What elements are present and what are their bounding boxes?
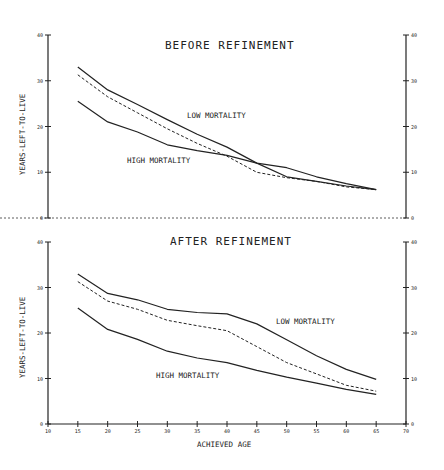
top-left-tick-label: 20 [37, 124, 43, 130]
top-panel-title: BEFORE REFINEMENT [165, 39, 295, 52]
x-tick-label: 60 [343, 428, 349, 434]
x-tick-label: 35 [194, 428, 200, 434]
x-tick-label: 55 [313, 428, 319, 434]
x-tick-label: 40 [224, 428, 230, 434]
bottom-left-tick-label: 30 [37, 285, 43, 291]
chart-figure: 0010102020303040400010102020303040401015… [0, 0, 444, 470]
bottom-left-tick-label: 10 [37, 376, 43, 382]
x-tick-label: 25 [134, 428, 140, 434]
bottom-right-tick-label: 10 [411, 376, 417, 382]
top-right-tick-label: 20 [411, 124, 417, 130]
top-right-tick-label: 0 [411, 215, 414, 221]
bottom-panel-title: AFTER REFINEMENT [170, 235, 292, 248]
bottom-series-solid [78, 274, 376, 380]
bottom-left-tick-label: 20 [37, 330, 43, 336]
x-tick-label: 50 [284, 428, 290, 434]
top-left-tick-label: 30 [37, 78, 43, 84]
bottom-high-mortality-label: HIGH MORTALITY [156, 371, 220, 380]
top-right-tick-label: 30 [411, 78, 417, 84]
x-tick-label: 15 [75, 428, 81, 434]
x-axis-label: ACHIEVED AGE [197, 440, 252, 449]
bottom-left-tick-label: 0 [40, 421, 43, 427]
x-tick-label: 65 [373, 428, 379, 434]
bottom-right-tick-label: 20 [411, 330, 417, 336]
x-tick-label: 20 [105, 428, 111, 434]
top-right-tick-label: 10 [411, 169, 417, 175]
x-tick-label: 70 [403, 428, 409, 434]
bottom-right-tick-label: 0 [411, 421, 414, 427]
top-y-axis-label: YEARS-LEFT-TO-LIVE [18, 93, 27, 175]
top-right-tick-label: 40 [411, 32, 417, 38]
top-low-mortality-label: LOW MORTALITY [187, 111, 246, 120]
bottom-left-tick-label: 40 [37, 239, 43, 245]
bottom-low-mortality-label: LOW MORTALITY [276, 317, 335, 326]
top-series-dashed [78, 75, 376, 190]
bottom-y-axis-label: YEARS-LEFT-TO-LIVE [18, 296, 27, 378]
top-left-tick-label: 40 [37, 32, 43, 38]
bottom-right-tick-label: 40 [411, 239, 417, 245]
x-tick-label: 45 [254, 428, 260, 434]
top-series-solid [78, 67, 376, 190]
x-tick-label: 10 [45, 428, 51, 434]
bottom-right-tick-label: 30 [411, 285, 417, 291]
bottom-series-dashed [78, 282, 376, 392]
top-left-tick-label: 10 [37, 169, 43, 175]
top-high-mortality-label: HIGH MORTALITY [127, 156, 191, 165]
x-tick-label: 30 [164, 428, 170, 434]
